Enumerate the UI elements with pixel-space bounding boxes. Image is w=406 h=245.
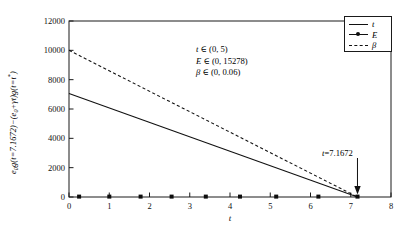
x-tick-label: 7 xyxy=(349,201,353,211)
y-tick-label: 6000 xyxy=(48,104,65,114)
y-tick-label: 4000 xyxy=(48,133,65,143)
y-tick-label: 10000 xyxy=(44,45,65,55)
legend-key-marker-line-icon xyxy=(348,30,369,40)
y-tick-marks xyxy=(69,21,74,197)
legend-item-E: E xyxy=(348,30,388,41)
legend-item-beta: β xyxy=(348,40,388,51)
x-tick-label: 8 xyxy=(389,201,393,211)
series-line-t xyxy=(69,94,357,197)
x-tick-label: 3 xyxy=(188,201,192,211)
annotation-range-beta: β ∈ (0, 0.06) xyxy=(196,67,248,79)
y-tick-label: 0 xyxy=(61,192,65,202)
x-tick-label: 6 xyxy=(308,201,312,211)
legend-label-beta: β xyxy=(372,40,376,50)
x-tick-label: 4 xyxy=(228,201,233,211)
chart-legend: t E β xyxy=(344,16,392,52)
legend-label-E: E xyxy=(372,30,377,40)
x-tick-label: 5 xyxy=(268,201,272,211)
x-tick-labels: 0 1 2 3 4 5 6 7 8 xyxy=(67,201,393,211)
x-tick-label: 2 xyxy=(147,201,151,211)
legend-key-dashed-line-icon xyxy=(348,40,369,50)
parameter-ranges-annotation: t ∈ (0, 5) E ∈ (0, 15278) β ∈ (0, 0.06) xyxy=(196,44,248,79)
x-tick-label: 0 xyxy=(67,201,71,211)
legend-key-solid-line-icon xyxy=(348,19,369,29)
legend-item-t: t xyxy=(348,19,388,30)
x-tick-marks xyxy=(69,193,391,198)
y-tick-labels: 0 2000 4000 6000 8000 10000 12000 xyxy=(44,16,65,202)
x-tick-label: 1 xyxy=(107,201,111,211)
legend-label-t: t xyxy=(372,19,374,29)
x-axis-title: t xyxy=(229,213,232,223)
y-tick-label: 2000 xyxy=(48,163,65,173)
figure-canvas: 0 2000 4000 6000 8000 10000 12000 0 1 2 … xyxy=(0,0,406,245)
convergence-annotation-label: t=7.1672 xyxy=(322,148,353,158)
y-tick-label: 8000 xyxy=(48,75,65,85)
y-tick-label: 12000 xyxy=(44,16,65,26)
convergence-arrow xyxy=(354,158,360,195)
annotation-range-t: t ∈ (0, 5) xyxy=(196,44,248,56)
annotation-range-E: E ∈ (0, 15278) xyxy=(196,56,248,68)
